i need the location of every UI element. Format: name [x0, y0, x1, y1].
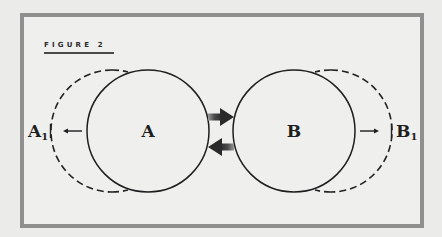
bold-arrow-right-icon	[208, 108, 234, 126]
label-a: A	[140, 121, 155, 141]
circle-b1-dashed	[315, 70, 392, 192]
bold-arrow-left-icon	[208, 138, 234, 156]
label-a1: A1	[27, 121, 48, 142]
label-b1-subscript: 1	[410, 131, 417, 142]
circle-a1-dashed	[51, 70, 128, 192]
diagram-canvas: A B A1 B1	[0, 0, 442, 237]
label-b: B	[287, 121, 301, 141]
label-a1-subscript: 1	[41, 131, 48, 142]
arrow-right-icon	[360, 129, 379, 134]
label-b1-base: B	[396, 121, 410, 141]
arrow-left-icon	[63, 129, 82, 134]
label-b1: B1	[396, 121, 417, 142]
label-a1-base: A	[27, 121, 42, 141]
